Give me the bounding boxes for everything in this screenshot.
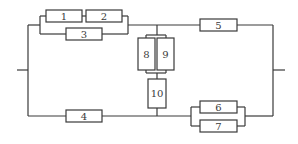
svg-text:1: 1 xyxy=(61,11,67,22)
svg-text:9: 9 xyxy=(162,49,168,60)
svg-text:6: 6 xyxy=(215,102,221,113)
block-2: 2 xyxy=(86,10,122,22)
block-4: 4 xyxy=(66,110,102,122)
block-diagram: 1 2 3 4 5 6 7 8 9 10 xyxy=(0,0,298,144)
block-7: 7 xyxy=(200,120,237,132)
block-9: 9 xyxy=(157,38,174,70)
block-8: 8 xyxy=(138,38,155,70)
block-6: 6 xyxy=(200,101,237,113)
svg-text:3: 3 xyxy=(81,29,87,40)
block-3: 3 xyxy=(66,28,102,40)
svg-text:8: 8 xyxy=(143,49,149,60)
svg-text:10: 10 xyxy=(151,88,164,99)
block-10: 10 xyxy=(148,79,166,108)
block-5: 5 xyxy=(200,19,237,31)
svg-text:7: 7 xyxy=(215,121,221,132)
svg-text:2: 2 xyxy=(101,11,107,22)
block-1: 1 xyxy=(46,10,82,22)
svg-text:5: 5 xyxy=(215,20,221,31)
svg-text:4: 4 xyxy=(81,111,87,122)
